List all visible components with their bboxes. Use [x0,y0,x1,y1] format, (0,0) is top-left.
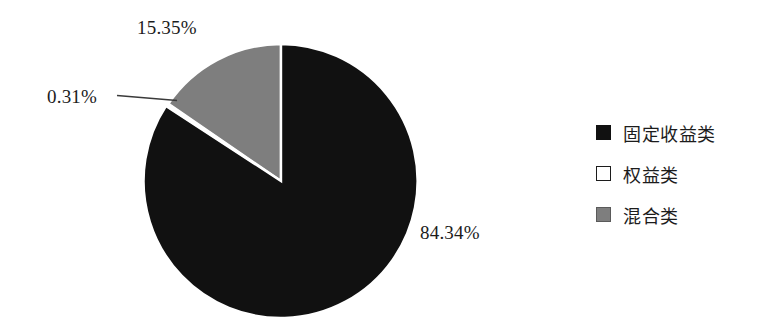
legend-swatch-mixed-icon [596,207,611,222]
legend-label-mixed: 混合类 [623,202,679,228]
pie-value-label-equity: 0.31% [47,86,97,108]
pie-chart-figure: 15.35% 0.31% 84.34% 固定收益类 权益类 混合类 [0,0,773,331]
legend-swatch-fixed-income-icon [596,125,611,140]
legend-item-fixed-income[interactable]: 固定收益类 [596,112,772,153]
legend-item-equity[interactable]: 权益类 [596,153,772,194]
legend-label-equity: 权益类 [623,161,679,187]
legend-swatch-equity-icon [596,166,611,181]
leader-line-equity [117,96,177,101]
legend-item-mixed[interactable]: 混合类 [596,194,772,235]
pie-value-label-mixed: 15.35% [137,17,197,39]
pie-svg [0,0,560,331]
legend-label-fixed-income: 固定收益类 [623,120,716,146]
pie-plot-area: 15.35% 0.31% 84.34% [0,0,560,331]
pie-value-label-fixed-income: 84.34% [420,222,480,244]
chart-legend: 固定收益类 权益类 混合类 [596,112,772,235]
